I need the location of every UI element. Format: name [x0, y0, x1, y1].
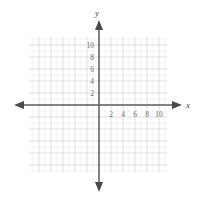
x-tick-label-8: 8	[145, 110, 149, 119]
x-axis-label: x	[185, 100, 190, 110]
x-tick-label-6: 6	[133, 110, 137, 119]
y-axis-arrow-down	[95, 182, 103, 192]
x-axis-arrow-left	[14, 101, 24, 109]
y-tick-label-8: 8	[90, 53, 94, 62]
x-tick-label-4: 4	[121, 110, 125, 119]
y-tick-label-6: 6	[90, 65, 94, 74]
coordinate-plane-figure: x y 10 8 6 4 2 2 4 6 8 10	[0, 0, 198, 198]
x-tick-label-10: 10	[155, 110, 163, 119]
y-tick-label-4: 4	[90, 77, 94, 86]
y-axis	[95, 20, 103, 192]
x-axis-arrow-right	[172, 101, 182, 109]
coordinate-grid-screenshot: x y 10 8 6 4 2 2 4 6 8 10	[0, 0, 198, 198]
y-tick-label-10: 10	[87, 41, 95, 50]
y-axis-label: y	[94, 8, 99, 18]
y-axis-arrow-up	[95, 20, 103, 30]
y-tick-label-2: 2	[90, 89, 94, 98]
x-tick-label-2: 2	[109, 110, 113, 119]
